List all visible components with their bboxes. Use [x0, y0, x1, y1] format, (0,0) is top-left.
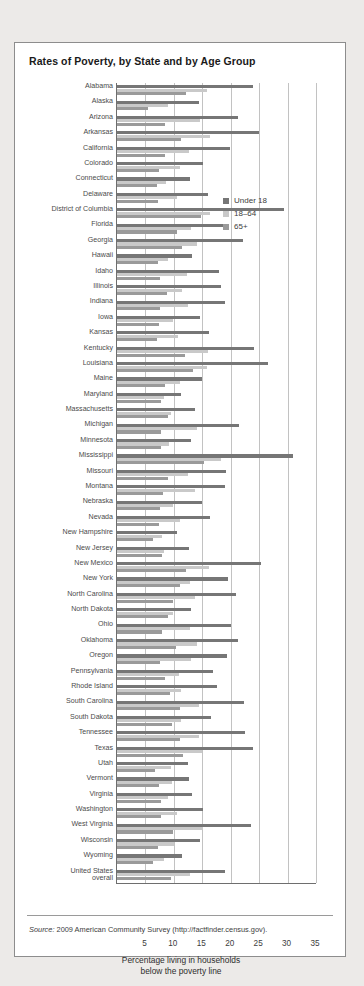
row-label: Connecticut	[17, 175, 113, 183]
bar-65-	[117, 661, 160, 664]
row-label: North Carolina	[17, 591, 113, 599]
row-label: Michigan	[17, 421, 113, 429]
bar-65-	[117, 507, 160, 510]
bar-row: New Hampshire	[117, 529, 315, 544]
row-label: Wyoming	[17, 852, 113, 860]
bar-row: Oregon	[117, 652, 315, 667]
bar-65-	[117, 338, 157, 341]
bar-65-	[117, 277, 160, 280]
bar-65-	[117, 92, 186, 95]
legend-label: 65+	[234, 222, 248, 231]
bar-row: Alaska	[117, 98, 315, 113]
figure-page: Rates of Poverty, by State and by Age Gr…	[0, 0, 364, 986]
row-label: Kentucky	[17, 345, 113, 353]
bar-row: Wisconsin	[117, 837, 315, 852]
row-label: West Virginia	[17, 821, 113, 829]
bar-65-	[117, 369, 193, 372]
row-label: Montana	[17, 483, 113, 491]
row-label: United Statesoverall	[17, 868, 113, 882]
bar-row: Florida	[117, 221, 315, 236]
bar-row: California	[117, 145, 315, 160]
bar-65-	[117, 492, 163, 495]
bar-65-	[117, 738, 180, 741]
bar-65-	[117, 415, 168, 418]
bar-row: Utah	[117, 760, 315, 775]
bar-row: Nebraska	[117, 498, 315, 513]
x-tick-10: 10	[168, 939, 177, 948]
bar-row: District of Columbia	[117, 206, 315, 221]
x-tick-5: 5	[142, 939, 147, 948]
bar-65-	[117, 230, 177, 233]
legend-label: Under 18	[234, 196, 267, 205]
figure-title: Rates of Poverty, by State and by Age Gr…	[29, 55, 256, 67]
row-label: Alabama	[17, 83, 113, 91]
row-label: Wisconsin	[17, 837, 113, 845]
bar-row: Missouri	[117, 468, 315, 483]
bar-65-	[117, 630, 162, 633]
bar-row: New Mexico	[117, 560, 315, 575]
bar-row: Iowa	[117, 314, 315, 329]
row-label: South Carolina	[17, 698, 113, 706]
source-label: Source:	[29, 925, 54, 934]
row-label: Missouri	[17, 468, 113, 476]
bar-row: Montana	[117, 483, 315, 498]
legend-swatch	[223, 198, 229, 204]
bar-65-	[117, 307, 160, 310]
bar-65-	[117, 723, 172, 726]
row-label: Florida	[17, 221, 113, 229]
bar-65-	[117, 200, 158, 203]
bar-row: Nevada	[117, 514, 315, 529]
row-label: New York	[17, 575, 113, 583]
row-label: Utah	[17, 760, 113, 768]
row-label: Colorado	[17, 160, 113, 168]
bar-65-	[117, 646, 176, 649]
bar-65-	[117, 123, 165, 126]
bar-65-	[117, 600, 173, 603]
row-label: Washington	[17, 806, 113, 814]
bar-65-	[117, 692, 170, 695]
bar-65-	[117, 323, 159, 326]
bar-65-	[117, 430, 161, 433]
row-label: Minnesota	[17, 437, 113, 445]
bar-row: New Jersey	[117, 545, 315, 560]
bar-row: Oklahoma	[117, 637, 315, 652]
x-axis-label-line2: below the poverty line	[15, 966, 347, 977]
row-label: Virginia	[17, 791, 113, 799]
bar-row: North Carolina	[117, 591, 315, 606]
bar-65-	[117, 677, 165, 680]
bar-row: Wyoming	[117, 852, 315, 867]
bar-row: Maryland	[117, 391, 315, 406]
row-label: Rhode Island	[17, 683, 113, 691]
bar-65-	[117, 830, 173, 833]
bar-row: Ohio	[117, 621, 315, 636]
bar-65-	[117, 538, 153, 541]
bar-65-	[117, 769, 155, 772]
row-label: District of Columbia	[17, 206, 113, 214]
bar-row: United Statesoverall	[117, 868, 315, 883]
bar-row: Massachusetts	[117, 406, 315, 421]
bar-65-	[117, 261, 158, 264]
row-label: Delaware	[17, 191, 113, 199]
bar-row: Washington	[117, 806, 315, 821]
bar-65-	[117, 877, 171, 880]
row-label: Pennsylvania	[17, 668, 113, 676]
row-label: Hawaii	[17, 252, 113, 260]
row-label: Maine	[17, 375, 113, 383]
figure-panel: Rates of Poverty, by State and by Age Gr…	[14, 42, 346, 957]
x-axis-label-line1: Percentage living in households	[15, 955, 347, 966]
row-label: Oklahoma	[17, 637, 113, 645]
bar-row: Louisiana	[117, 360, 315, 375]
chart-legend: Under 1818–6465+	[223, 195, 267, 234]
row-label: Vermont	[17, 775, 113, 783]
row-label: Iowa	[17, 314, 113, 322]
x-axis-line	[116, 883, 316, 884]
bar-row: Minnesota	[117, 437, 315, 452]
bar-row: Colorado	[117, 160, 315, 175]
bar-65-	[117, 154, 165, 157]
bar-65-	[117, 446, 161, 449]
x-tick-20: 20	[225, 939, 234, 948]
row-label: Indiana	[17, 298, 113, 306]
plot-area: AlabamaAlaskaArizonaArkansasCaliforniaCo…	[116, 83, 315, 883]
source-text: 2009 American Community Survey (http://f…	[54, 925, 267, 934]
row-label: Ohio	[17, 621, 113, 629]
